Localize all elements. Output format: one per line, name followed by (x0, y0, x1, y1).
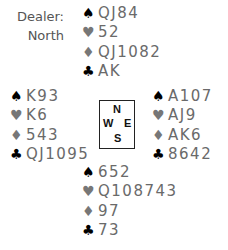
diamond-icon: ♦ (10, 127, 25, 143)
west-hearts: ♥K6 (10, 106, 89, 126)
diamond-icon: ♦ (152, 127, 167, 143)
compass-west: W (103, 117, 113, 129)
west-spades: ♠K93 (10, 86, 89, 106)
club-icon: ♣ (82, 63, 97, 79)
north-clubs: ♣AK (82, 62, 161, 82)
spade-icon: ♠ (82, 5, 97, 21)
heart-icon: ♥ (82, 24, 97, 40)
spade-icon: ♠ (152, 88, 167, 104)
north-spades: ♠QJ84 (82, 3, 161, 23)
west-clubs: ♣QJ1095 (10, 145, 89, 165)
east-hearts: ♥AJ9 (152, 106, 213, 126)
east-spades: ♠A107 (152, 86, 213, 106)
east-diamonds: ♦AK6 (152, 125, 213, 145)
heart-icon: ♥ (152, 107, 167, 123)
north-hand: ♠QJ84 ♥52 ♦QJ1082 ♣AK (82, 3, 161, 81)
dealer-value: North (0, 28, 64, 43)
diamond-icon: ♦ (82, 203, 97, 219)
club-icon: ♣ (10, 146, 25, 162)
south-hearts: ♥Q108743 (82, 182, 178, 202)
compass-box: N W E S (99, 100, 135, 149)
south-diamonds: ♦97 (82, 201, 178, 221)
compass-south: S (114, 132, 121, 144)
south-hand: ♠652 ♥Q108743 ♦97 ♣73 (82, 162, 178, 240)
north-diamonds: ♦QJ1082 (82, 42, 161, 62)
west-diamonds: ♦543 (10, 125, 89, 145)
spade-icon: ♠ (82, 164, 97, 180)
north-hearts: ♥52 (82, 23, 161, 43)
east-hand: ♠A107 ♥AJ9 ♦AK6 ♣8642 (152, 86, 213, 164)
dealer-label: Dealer: (0, 9, 64, 24)
diamond-icon: ♦ (82, 44, 97, 60)
spade-icon: ♠ (10, 88, 25, 104)
club-icon: ♣ (82, 222, 97, 238)
compass-east: E (124, 117, 131, 129)
club-icon: ♣ (152, 146, 167, 162)
south-spades: ♠652 (82, 162, 178, 182)
south-clubs: ♣73 (82, 221, 178, 241)
heart-icon: ♥ (82, 183, 97, 199)
heart-icon: ♥ (10, 107, 25, 123)
west-hand: ♠K93 ♥K6 ♦543 ♣QJ1095 (10, 86, 89, 164)
compass-north: N (113, 103, 121, 115)
